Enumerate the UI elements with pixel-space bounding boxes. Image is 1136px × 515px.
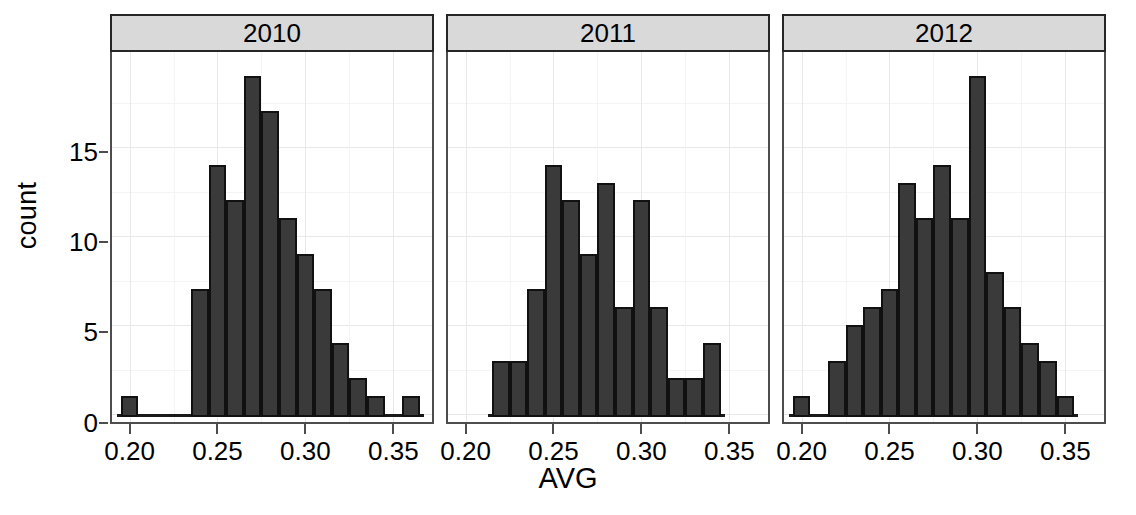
x-tick-mark [552,424,554,434]
gridline-vertical [466,52,467,422]
x-tick-mark [1064,424,1066,434]
histogram-bar [828,361,846,417]
y-tick-mark-10 [99,241,108,243]
x-tick-mark [392,424,394,434]
gridline-horizontal-minor [784,103,1104,104]
panel-2011: 2011 [446,14,770,424]
panel-strip-label-2012: 2012 [915,18,973,49]
panel-2012: 2012 [782,14,1106,424]
gridline-vertical-minor [174,52,175,422]
y-tick-mark-5 [99,331,108,333]
histogram-bar [793,396,811,417]
histogram-bar [261,111,279,417]
histogram-bar [1057,396,1075,417]
panel-2010: 2010 [110,14,434,424]
histogram-bar [881,289,899,417]
histogram-bar [209,165,227,417]
y-axis-title-text: count [13,181,44,249]
histogram-bar [986,272,1004,417]
gridline-vertical [130,52,131,422]
gridline-horizontal [784,147,1104,148]
gridline-vertical [802,52,803,422]
x-tick-mark [801,424,803,434]
panel-strip-label-2010: 2010 [243,18,301,49]
histogram-bar [933,165,951,417]
y-tick-label-0: 0 [84,408,98,439]
x-tick-mark [216,424,218,434]
histogram-bar [332,343,350,417]
histogram-bar [492,361,510,417]
gridline-vertical-minor [349,52,350,422]
gridline-vertical [729,52,730,422]
histogram-bar [1039,361,1057,417]
panel-strip-2012: 2012 [782,14,1106,52]
x-tick-mark [728,424,730,434]
histogram-bar [545,165,563,417]
histogram-bar [297,254,315,417]
plot-area-2010 [110,52,434,424]
histogram-bar [527,289,545,417]
histogram-bar [367,396,385,417]
plot-area-2011 [446,52,770,424]
x-tick-mark [304,424,306,434]
histogram-bar [969,76,987,417]
histogram-bar [898,183,916,417]
gridline-vertical [393,52,394,422]
panel-strip-2010: 2010 [110,14,434,52]
histogram-bar [668,378,686,417]
histogram-bar [650,307,668,417]
y-tick-label-10: 10 [69,227,98,258]
x-tick-mark [465,424,467,434]
y-axis-ticks: 15 10 5 0 [46,0,98,515]
histogram-bar [1021,343,1039,417]
x-tick-mark [640,424,642,434]
y-axis-title: count [8,0,48,430]
histogram-bar [510,361,528,417]
histogram-bar [244,76,262,417]
y-tick-label-15: 15 [69,137,98,168]
histogram-bar [402,396,420,417]
y-tick-mark-15 [99,151,108,153]
gridline-horizontal [448,147,768,148]
histogram-bar [580,254,598,417]
histogram-bar [226,200,244,417]
histogram-bar [633,200,651,417]
histogram-bar [846,325,864,417]
gridline-vertical [1065,52,1066,422]
x-axis-title: AVG [0,462,1136,495]
histogram-bar [685,378,703,417]
gridline-vertical-minor [685,52,686,422]
histogram-bar [349,378,367,417]
histogram-bar [615,307,633,417]
y-tick-label-5: 5 [84,317,98,348]
histogram-bar [597,183,615,417]
histogram-bar [562,200,580,417]
histogram-bar [916,218,934,417]
histogram-bar [314,289,332,417]
gridline-horizontal-minor [112,103,432,104]
x-tick-mark [976,424,978,434]
gridline-horizontal-minor [448,103,768,104]
y-tick-mark-0 [99,422,108,424]
histogram-bar [191,289,209,417]
histogram-bar [279,218,297,417]
x-tick-mark [129,424,131,434]
histogram-bar [1004,307,1022,417]
histogram-bar [863,307,881,417]
histogram-figure: count 15 10 5 0 2010 0.200.250.300.35 20… [0,0,1136,515]
histogram-bar [121,396,139,417]
panel-strip-label-2011: 2011 [580,18,636,49]
histogram-bar [951,218,969,417]
panel-strip-2011: 2011 [446,14,770,52]
plot-area-2012 [782,52,1106,424]
histogram-bar [703,343,721,417]
x-tick-mark [888,424,890,434]
